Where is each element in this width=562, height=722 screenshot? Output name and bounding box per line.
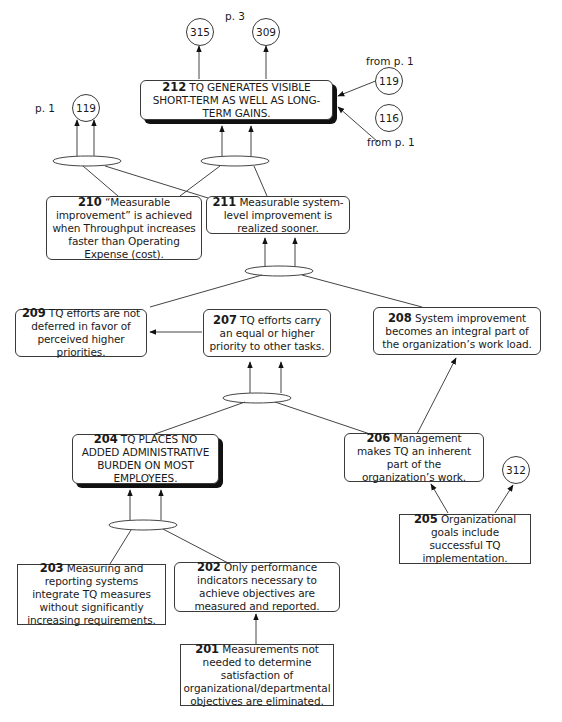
node-201[interactable]: 201 Measurements not needed to determine…: [180, 644, 334, 706]
node-number: 203: [40, 561, 64, 575]
connector-312[interactable]: 312: [502, 456, 530, 484]
node-206[interactable]: 206 Management makes TQ an inherent part…: [344, 433, 484, 482]
node-207[interactable]: 207 TQ efforts carry an equal or higher …: [203, 309, 331, 357]
node-211[interactable]: 211 Measurable system-level improvement …: [206, 196, 350, 234]
node-209[interactable]: 209 TQ efforts are not deferred in favor…: [15, 309, 147, 357]
node-text: Measurable system-level improvement is r…: [224, 196, 344, 234]
connector-116[interactable]: 116: [375, 104, 403, 132]
page-ref-label: p. 3: [225, 10, 245, 22]
node-text: TQ efforts are not deferred in favor of …: [31, 307, 140, 358]
node-number: 201: [195, 642, 219, 656]
node-number: 209: [22, 306, 46, 320]
node-number: 212: [162, 80, 186, 94]
node-number: 205: [414, 512, 438, 526]
node-number: 202: [197, 560, 221, 574]
connector-309[interactable]: 309: [252, 18, 280, 46]
connector-119-right[interactable]: 119: [375, 67, 403, 95]
node-208[interactable]: 208 System improvement becomes an integr…: [373, 307, 541, 355]
node-number: 207: [213, 313, 237, 327]
connector-119-left[interactable]: 119: [72, 94, 100, 122]
node-text: “Measurable improvement” is achieved whe…: [52, 196, 195, 260]
node-204[interactable]: 204 TQ PLACES NO ADDED ADMINISTRATIVE BU…: [72, 434, 219, 484]
node-number: 208: [388, 311, 412, 325]
connector-315[interactable]: 315: [186, 18, 214, 46]
node-202[interactable]: 202 Only performance indicators necessar…: [174, 562, 340, 612]
node-number: 211: [212, 195, 236, 209]
node-number: 210: [78, 195, 102, 209]
node-203[interactable]: 203 Measuring and reporting systems inte…: [17, 564, 166, 625]
page-ref-label: p. 1: [35, 102, 55, 114]
diagram-canvas: p. 3 from p. 1 from p. 1 p. 1 315 309 11…: [0, 0, 562, 722]
page-ref-label: from p. 1: [366, 55, 414, 67]
page-ref-label: from p. 1: [367, 136, 415, 148]
node-210[interactable]: 210 “Measurable improvement” is achieved…: [46, 196, 202, 260]
node-number: 204: [94, 432, 118, 446]
node-number: 206: [366, 431, 390, 445]
node-205[interactable]: 205 Organizational goals include success…: [399, 514, 531, 564]
node-212[interactable]: 212 TQ GENERATES VISIBLE SHORT-TERM AS W…: [140, 80, 333, 120]
